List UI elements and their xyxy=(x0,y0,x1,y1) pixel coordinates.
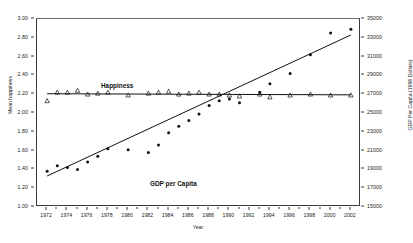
y-tick-label-right: 25000 xyxy=(367,109,382,115)
y-tick-mark-right xyxy=(361,36,364,37)
x-tick-label: 1978 xyxy=(101,212,113,218)
x-tick-mark-minor xyxy=(299,207,300,209)
y-tick-mark-left xyxy=(31,93,34,94)
x-axis-title: Year xyxy=(36,224,360,230)
x-tick-mark xyxy=(66,207,67,210)
y-tick-mark-left xyxy=(31,206,34,207)
y-axis-left: 1.001.201.401.601.802.002.202.402.602.80… xyxy=(0,18,34,206)
x-tick-mark xyxy=(147,207,148,210)
data-point-happiness xyxy=(96,91,100,95)
x-tick-mark-minor xyxy=(96,207,97,209)
data-point-happiness xyxy=(227,93,231,97)
data-point-happiness xyxy=(45,99,49,103)
data-point-gdp xyxy=(106,147,109,150)
data-point-gdp xyxy=(218,99,221,102)
data-point-happiness xyxy=(75,88,79,92)
x-tick-label: 1988 xyxy=(202,212,214,218)
data-point-gdp xyxy=(66,166,69,169)
x-tick-mark-minor xyxy=(76,207,77,209)
data-point-gdp xyxy=(208,104,211,107)
data-point-happiness xyxy=(197,90,201,94)
x-axis: 1972197419761978198019821984198619881990… xyxy=(36,207,360,223)
y-tick-mark-right xyxy=(361,149,364,150)
data-point-gdp xyxy=(167,131,170,134)
y-tick-mark-right xyxy=(361,130,364,131)
y-tick-label-left: 2.60 xyxy=(18,53,29,59)
y-tick-mark-right xyxy=(361,55,364,56)
y-tick-label-right: 33000 xyxy=(367,34,382,40)
y-tick-mark-left xyxy=(31,18,34,19)
data-point-gdp xyxy=(127,148,130,151)
y-tick-label-right: 17000 xyxy=(367,184,382,190)
y-tick-label-right: 23000 xyxy=(367,128,382,134)
x-tick-mark-minor xyxy=(238,207,239,209)
data-point-gdp xyxy=(187,119,190,122)
y-tick-label-left: 1.80 xyxy=(18,128,29,134)
data-point-gdp xyxy=(177,125,180,128)
x-tick-label: 2002 xyxy=(344,212,356,218)
x-tick-mark-minor xyxy=(279,207,280,209)
y-tick-mark-right xyxy=(361,206,364,207)
x-tick-label: 1984 xyxy=(162,212,174,218)
y-axis-right-title: GDP Per Capita (1996 Dollars) xyxy=(407,40,413,150)
x-tick-mark xyxy=(329,207,330,210)
y-tick-label-left: 3.00 xyxy=(18,15,29,21)
data-point-gdp xyxy=(56,164,59,167)
y-tick-label-left: 2.00 xyxy=(18,109,29,115)
trend-line-gdp-per-capita xyxy=(47,35,351,176)
y-axis-right: 1500017000190002100023000250002700029000… xyxy=(361,18,395,206)
data-point-gdp xyxy=(349,28,352,31)
x-tick-mark xyxy=(248,207,249,210)
x-tick-mark xyxy=(46,207,47,210)
x-tick-mark-minor xyxy=(177,207,178,209)
y-tick-mark-right xyxy=(361,18,364,19)
y-tick-label-left: 1.40 xyxy=(18,165,29,171)
x-tick-mark xyxy=(167,207,168,210)
x-tick-label: 1990 xyxy=(222,212,234,218)
x-tick-mark-minor xyxy=(117,207,118,209)
data-point-gdp xyxy=(258,91,261,94)
y-tick-label-right: 19000 xyxy=(367,165,382,171)
y-tick-label-right: 27000 xyxy=(367,90,382,96)
data-point-gdp xyxy=(198,112,201,115)
x-tick-mark xyxy=(289,207,290,210)
x-tick-label: 1986 xyxy=(182,212,194,218)
x-tick-mark-minor xyxy=(56,207,57,209)
x-tick-label: 1972 xyxy=(40,212,52,218)
data-point-gdp xyxy=(46,170,49,173)
y-tick-mark-left xyxy=(31,36,34,37)
data-point-gdp xyxy=(76,168,79,171)
y-tick-label-left: 1.20 xyxy=(18,184,29,190)
y-tick-mark-left xyxy=(31,112,34,113)
y-tick-mark-right xyxy=(361,187,364,188)
x-tick-label: 1998 xyxy=(303,212,315,218)
y-tick-mark-left xyxy=(31,55,34,56)
data-point-gdp xyxy=(329,32,332,35)
data-canvas xyxy=(37,19,361,207)
x-tick-label: 2000 xyxy=(324,212,336,218)
data-point-happiness xyxy=(156,90,160,94)
x-tick-mark xyxy=(106,207,107,210)
data-point-gdp xyxy=(309,53,312,56)
y-tick-mark-right xyxy=(361,74,364,75)
x-tick-mark xyxy=(309,207,310,210)
y-tick-mark-right xyxy=(361,168,364,169)
data-point-gdp xyxy=(228,97,231,100)
data-point-gdp xyxy=(86,160,89,163)
x-tick-mark xyxy=(228,207,229,210)
x-tick-mark xyxy=(86,207,87,210)
data-point-gdp xyxy=(268,82,271,85)
data-point-gdp xyxy=(289,72,292,75)
y-tick-label-right: 31000 xyxy=(367,53,382,59)
y-tick-label-left: 2.20 xyxy=(18,90,29,96)
x-tick-mark-minor xyxy=(339,207,340,209)
y-tick-mark-left xyxy=(31,168,34,169)
x-tick-mark-minor xyxy=(258,207,259,209)
x-tick-label: 1994 xyxy=(263,212,275,218)
y-axis-left-title: Mean happiness xyxy=(7,65,13,125)
data-point-gdp xyxy=(238,101,241,104)
y-tick-mark-left xyxy=(31,149,34,150)
x-tick-mark-minor xyxy=(137,207,138,209)
plot-inner: Happiness GDP per Capita xyxy=(37,19,359,205)
